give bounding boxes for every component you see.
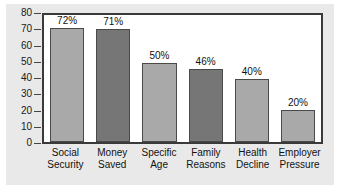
y-axis-tick-label: 60 bbox=[21, 41, 32, 51]
x-axis-category-label-line: Age bbox=[136, 159, 183, 171]
x-axis-category-label: FamilyReasons bbox=[182, 147, 229, 171]
y-axis-tick-label: 30 bbox=[21, 89, 32, 99]
y-axis-tick-mark bbox=[34, 111, 41, 112]
bar-value-label: 72% bbox=[57, 15, 77, 26]
y-axis-tick-label: 20 bbox=[21, 106, 32, 116]
bar[interactable]: 20% bbox=[281, 110, 315, 142]
bar-slot: 20% bbox=[275, 15, 321, 142]
y-axis-tick-label: 10 bbox=[21, 122, 32, 132]
x-axis-category-label: HealthDecline bbox=[229, 147, 276, 171]
y-axis-tick-mark bbox=[34, 62, 41, 63]
bar-series: 72%71%50%46%40%20% bbox=[44, 15, 321, 142]
x-axis-category-label-line: Family bbox=[182, 147, 229, 159]
plot-area: 72%71%50%46%40%20% bbox=[42, 13, 323, 144]
bar-slot: 50% bbox=[136, 15, 182, 142]
bar-value-label: 40% bbox=[242, 66, 262, 77]
x-axis-category-label-line: Social bbox=[42, 147, 89, 159]
x-axis-category-label: SpecificAge bbox=[136, 147, 183, 171]
bar-slot: 72% bbox=[44, 15, 90, 142]
x-axis-category-label-line: Reasons bbox=[182, 159, 229, 171]
x-axis-category-label-line: Security bbox=[42, 159, 89, 171]
bar[interactable]: 72% bbox=[50, 28, 84, 142]
y-axis-tick-label: 80 bbox=[21, 8, 32, 18]
bar-value-label: 71% bbox=[103, 16, 123, 27]
bar-value-label: 20% bbox=[288, 97, 308, 108]
y-axis-tick-mark bbox=[34, 46, 41, 47]
y-axis-tick-mark bbox=[34, 127, 41, 128]
y-axis-tick-mark bbox=[34, 94, 41, 95]
bar-value-label: 50% bbox=[149, 50, 169, 61]
x-axis-category-label-line: Specific bbox=[136, 147, 183, 159]
bar[interactable]: 40% bbox=[235, 79, 269, 143]
bar-slot: 71% bbox=[90, 15, 136, 142]
y-axis-tick-mark bbox=[34, 29, 41, 30]
bar-slot: 46% bbox=[183, 15, 229, 142]
y-axis-tick-label: 70 bbox=[21, 24, 32, 34]
bar[interactable]: 50% bbox=[142, 63, 176, 142]
y-axis-tick-label: 50 bbox=[21, 57, 32, 67]
y-axis-tick-label: 0 bbox=[26, 138, 32, 148]
x-axis-category-label: MoneySaved bbox=[89, 147, 136, 171]
bar[interactable]: 46% bbox=[189, 69, 223, 142]
x-axis-category-label-line: Employer bbox=[276, 147, 323, 159]
x-axis-category-label-line: Saved bbox=[89, 159, 136, 171]
y-axis-tick-mark bbox=[34, 143, 41, 144]
x-axis-category-label-line: Decline bbox=[229, 159, 276, 171]
y-axis-tick-mark bbox=[34, 78, 41, 79]
y-axis-tick-mark bbox=[34, 13, 41, 14]
x-axis-category-labels: SocialSecurityMoneySavedSpecificAgeFamil… bbox=[42, 147, 323, 171]
y-axis-tick-label: 40 bbox=[21, 73, 32, 83]
x-axis-category-label: SocialSecurity bbox=[42, 147, 89, 171]
bar[interactable]: 71% bbox=[96, 29, 130, 142]
x-axis-category-label-line: Money bbox=[89, 147, 136, 159]
x-axis-category-label-line: Health bbox=[229, 147, 276, 159]
y-axis: 80706050403020100 bbox=[12, 13, 42, 143]
bar-slot: 40% bbox=[229, 15, 275, 142]
x-axis-category-label-line: Pressure bbox=[276, 159, 323, 171]
bar-value-label: 46% bbox=[196, 56, 216, 67]
bar-chart: 80706050403020100 72%71%50%46%40%20% Soc… bbox=[0, 0, 340, 194]
x-axis-category-label: EmployerPressure bbox=[276, 147, 323, 171]
